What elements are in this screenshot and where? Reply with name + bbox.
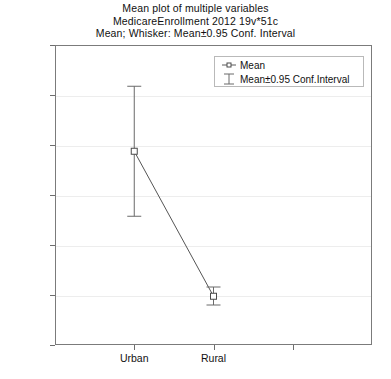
chart-legend: Mean Mean±0.95 Conf.Interval [214,56,364,87]
legend-label-conf-interval: Mean±0.95 Conf.Interval [240,74,349,85]
legend-item-conf-interval: Mean±0.95 Conf.Interval [219,72,349,86]
mean-connector-line [134,151,213,296]
legend-label-mean: Mean [240,60,265,71]
i-beam-whisker-icon [219,72,239,86]
mean-plot-chart: Mean plot of multiple variables Medicare… [0,0,391,379]
mean-data-point [211,293,217,299]
mean-data-point [131,148,137,154]
legend-item-mean: Mean [219,58,265,72]
square-point-icon [219,58,239,72]
